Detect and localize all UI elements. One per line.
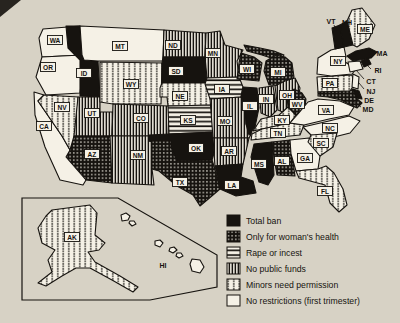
state-label-AL: AL [278, 158, 287, 165]
state-HI [190, 259, 204, 273]
state-HI [155, 240, 163, 247]
state-label-WY: WY [126, 81, 137, 88]
state-label-RI: RI [375, 67, 382, 74]
legend-label-total-ban: Total ban [246, 216, 281, 226]
state-label-VA: VA [322, 107, 331, 114]
legend-label-rape-or-incest: Rape or incest [246, 248, 303, 258]
legend-label-womans-health: Only for woman's health [246, 232, 339, 242]
state-label-MT: MT [115, 43, 125, 50]
legend-swatch-no-public-funds [227, 263, 240, 274]
state-label-NH: NH [342, 19, 352, 26]
legend-label-no-restrictions: No restrictions (first trimester) [246, 296, 360, 306]
state-LA [215, 164, 256, 196]
state-label-CO: CO [136, 115, 146, 122]
state-label-AK: AK [67, 234, 77, 241]
state-label-NC: NC [325, 125, 335, 132]
state-MA [347, 48, 377, 61]
state-label-LA: LA [228, 182, 237, 189]
legend-swatch-no-restrictions [227, 295, 240, 306]
state-label-MD: MD [363, 106, 374, 113]
state-NM [110, 136, 154, 185]
state-label-ND: ND [168, 42, 178, 49]
state-label-ID: ID [81, 70, 88, 77]
state-label-WI: WI [243, 66, 251, 73]
legend-item-rape-or-incest: Rape or incest [227, 247, 303, 258]
legend-label-minors-permission: Minors need permission [246, 280, 338, 290]
state-label-NE: NE [175, 93, 185, 100]
state-label-MS: MS [254, 161, 264, 168]
state-label-WV: WV [292, 101, 303, 108]
state-label-TN: TN [274, 130, 283, 137]
legend-swatch-womans-health [227, 231, 240, 242]
us-abortion-restrictions-map: CAWAORNVIDUTAZMTWYCONMNDSDNEKSOKTXMNIAMO… [0, 0, 400, 323]
state-label-UT: UT [88, 110, 97, 117]
legend-item-womans-health: Only for woman's health [227, 231, 339, 242]
state-label-KS: KS [183, 117, 193, 124]
state-label-MN: MN [208, 50, 218, 57]
state-label-DE: DE [364, 97, 374, 104]
state-label-WA: WA [50, 37, 61, 44]
legend-swatch-rape-or-incest [227, 247, 240, 258]
state-label-VT: VT [327, 18, 337, 25]
state-label-GA: GA [300, 155, 310, 162]
state-label-OR: OR [43, 64, 53, 71]
state-label-MI: MI [274, 69, 281, 76]
state-HI [121, 213, 130, 221]
legend-label-no-public-funds: No public funds [246, 264, 307, 274]
state-HI [169, 247, 177, 253]
state-label-NJ: NJ [367, 88, 376, 95]
state-CT [348, 61, 363, 72]
legend-swatch-minors-permission [227, 279, 240, 290]
state-label-CT: CT [366, 78, 376, 85]
state-label-MA: MA [377, 50, 388, 57]
state-label-NY: NY [333, 58, 343, 65]
legend-item-no-restrictions: No restrictions (first trimester) [227, 295, 360, 306]
state-label-AZ: AZ [88, 151, 97, 158]
state-label-NM: NM [133, 152, 144, 159]
pointer-line-NJ [359, 83, 364, 89]
state-label-SD: SD [171, 68, 180, 75]
state-label-IA: IA [219, 86, 226, 93]
state-HI [176, 253, 183, 258]
state-label-ME: ME [360, 26, 370, 33]
state-HI [129, 221, 136, 226]
state-NJ [352, 74, 359, 89]
state-label-IN: IN [263, 96, 270, 103]
state-label-HI: HI [160, 262, 167, 269]
legend-item-no-public-funds: No public funds [227, 263, 307, 274]
state-label-IL: IL [247, 103, 253, 110]
state-label-CA: CA [39, 123, 49, 130]
state-label-TX: TX [176, 179, 185, 186]
scanned-page: CAWAORNVIDUTAZMTWYCONMNDSDNEKSOKTXMNIAMO… [0, 0, 400, 323]
state-label-FL: FL [321, 188, 329, 195]
state-label-MO: MO [220, 118, 231, 125]
state-label-OH: OH [282, 92, 292, 99]
state-label-PA: PA [326, 80, 335, 87]
state-label-AR: AR [224, 148, 234, 155]
legend-item-total-ban: Total ban [227, 215, 281, 226]
legend-swatch-total-ban [227, 215, 240, 226]
legend: Total ban Only for woman's health Rape o… [227, 215, 360, 306]
state-label-KY: KY [277, 117, 287, 124]
state-label-OK: OK [191, 145, 201, 152]
page-corner-fold [0, 0, 21, 17]
state-label-SC: SC [316, 140, 325, 147]
legend-item-minors-permission: Minors need permission [227, 279, 338, 290]
state-label-NV: NV [57, 104, 67, 111]
